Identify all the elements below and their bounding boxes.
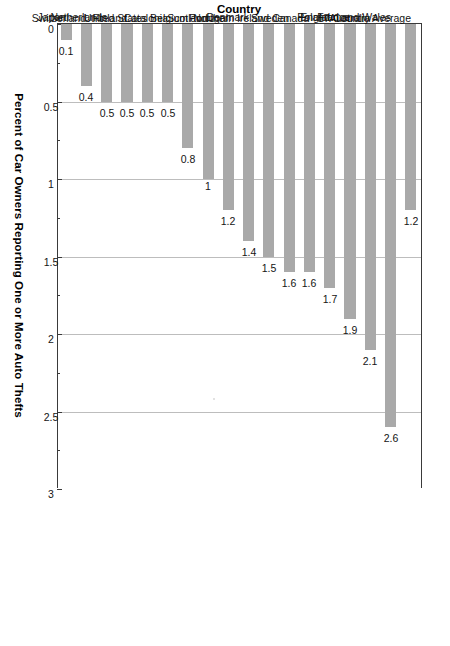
bar-row[interactable]: 1.9France (344, 24, 355, 489)
bar-row[interactable]: 1.4Denmark (243, 24, 254, 489)
bar-row[interactable]: 2.1Australia (365, 24, 376, 489)
bar-value-label: 1.7 (322, 294, 337, 305)
category-axis-title: Country (57, 0, 422, 18)
bar[interactable] (365, 24, 376, 350)
bar[interactable] (142, 24, 153, 102)
axis-tick-minor (57, 295, 60, 296)
value-axis-tick-label: 1.5 (44, 257, 59, 268)
bar-row[interactable]: 1.217-Country Average (405, 24, 416, 489)
bar-value-label: 0.1 (59, 46, 74, 57)
bar-value-label: 0.4 (79, 92, 94, 103)
bar-row[interactable]: 0.5Netherlands (101, 24, 112, 489)
bar[interactable] (203, 24, 214, 179)
bar-value-label: 1.2 (404, 216, 419, 227)
bar-value-label: 1.2 (221, 216, 236, 227)
axis-tick-minor (57, 450, 60, 451)
bar-value-label: 0.5 (160, 108, 175, 119)
bar[interactable] (385, 24, 396, 427)
axis-tick-minor (57, 373, 60, 374)
bar-value-label: 0.8 (181, 154, 196, 165)
bar-row[interactable]: 0.5Finland (121, 24, 132, 489)
bar[interactable] (324, 24, 335, 288)
bar[interactable] (121, 24, 132, 102)
value-axis-tick-label: 0.5 (44, 102, 59, 113)
plot-area: 00.511.522.531.217-Country Average2.6Eng… (57, 23, 422, 488)
category-axis-title-text: Country (217, 3, 261, 15)
bar[interactable] (101, 24, 112, 102)
bar-row[interactable]: 1Scotland (203, 24, 214, 489)
bar[interactable] (284, 24, 295, 272)
bar[interactable] (263, 24, 274, 257)
bar-value-label: 0.5 (120, 108, 135, 119)
bar-value-label: 1.6 (282, 278, 297, 289)
bar[interactable] (182, 24, 193, 148)
value-axis-tick-label: 2.5 (44, 412, 59, 423)
axis-tick-minor (57, 218, 60, 219)
bar-row[interactable]: 0.5United States (142, 24, 153, 489)
bar-row[interactable]: 0.1Japan (61, 24, 72, 489)
axis-tick-minor (57, 140, 60, 141)
bar-value-label: 1.5 (262, 263, 277, 274)
bar-row[interactable]: 1.6Canada (304, 24, 315, 489)
bar-row[interactable]: 2.6England and Wales (385, 24, 396, 489)
axis-tick-minor (57, 63, 60, 64)
bar-value-label: 1.6 (302, 278, 317, 289)
value-axis-tick-label: 0 (48, 24, 54, 35)
bar-row[interactable]: 0.4Switzerland (81, 24, 92, 489)
bar[interactable] (304, 24, 315, 272)
value-axis-tick-label: 2 (48, 334, 54, 345)
bar-value-label: 0.5 (140, 108, 155, 119)
bar[interactable] (61, 24, 72, 40)
bar[interactable] (162, 24, 173, 102)
bar-value-label: 1 (205, 181, 211, 192)
bar-row[interactable]: 0.5Catalonia (162, 24, 173, 489)
bar-value-label: 0.5 (99, 108, 114, 119)
bar-row[interactable]: 1.7Poland (324, 24, 335, 489)
bar[interactable] (223, 24, 234, 210)
rotated-figure: 00.511.522.531.217-Country Average2.6Eng… (0, 0, 450, 646)
bar[interactable] (405, 24, 416, 210)
bar-row[interactable]: 0.8Belgium (182, 24, 193, 489)
bar-value-label: 2.6 (383, 433, 398, 444)
value-axis-tick-label: 3 (48, 489, 54, 500)
chart-page: 00.511.522.531.217-Country Average2.6Eng… (0, 0, 450, 646)
bar-row[interactable]: 1.5Northern Ireland (263, 24, 274, 489)
bar-value-label: 2.1 (363, 356, 378, 367)
bar-value-label: 1.9 (343, 325, 358, 336)
bar[interactable] (81, 24, 92, 86)
value-axis-tick-label: 1 (48, 179, 54, 190)
bar[interactable] (243, 24, 254, 241)
bar-row[interactable]: 1.6Sweden (284, 24, 295, 489)
bar-value-label: 1.4 (241, 247, 256, 258)
axis-tick-major (57, 489, 62, 490)
value-axis-title: Percent of Car Owners Reporting One or M… (13, 23, 25, 488)
bar-row[interactable]: 1.2Portugal (223, 24, 234, 489)
bar[interactable] (344, 24, 355, 319)
